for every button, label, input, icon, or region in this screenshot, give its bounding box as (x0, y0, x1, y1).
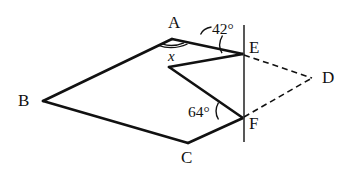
edge-A-E (172, 39, 243, 54)
angle-leader-42 (201, 27, 212, 35)
vertex-label-D: D (322, 69, 334, 86)
angle-arc-F-64 (216, 103, 219, 120)
vertex-label-F: F (249, 115, 258, 132)
dashed-edges-group (244, 55, 312, 117)
angle-label-64: 64° (188, 104, 210, 120)
edge-F-D-dashed (244, 78, 312, 117)
geometry-figure: A B C D E F 42° 64° x (0, 0, 359, 177)
vertex-label-A: A (168, 14, 180, 31)
edge-B-C (43, 101, 188, 143)
edge-E-D-dashed (244, 55, 312, 78)
edge-E-G (169, 54, 243, 67)
vertex-label-E: E (249, 39, 259, 56)
edge-A-B (43, 39, 172, 101)
angle-arc-A-x (159, 43, 188, 48)
vertex-label-B: B (18, 92, 29, 109)
edge-C-F (188, 118, 243, 143)
vertex-label-C: C (181, 149, 192, 166)
angle-label-42: 42° (212, 21, 234, 37)
angle-label-x: x (168, 49, 175, 64)
solid-edges-group (43, 39, 243, 143)
